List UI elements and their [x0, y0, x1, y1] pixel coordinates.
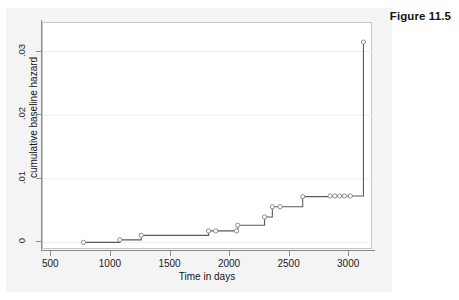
data-point-marker [262, 215, 266, 219]
data-point-marker [361, 40, 365, 44]
data-point-marker [328, 194, 332, 198]
x-tick-mark [289, 251, 290, 256]
y-tick-mark [36, 114, 41, 115]
y-tick-label: .01 [16, 166, 27, 188]
x-tick-mark [229, 251, 230, 256]
x-tick-label: 1500 [150, 258, 190, 269]
x-tick-label: 2000 [209, 258, 249, 269]
x-tick-mark [170, 251, 171, 256]
data-point-marker [214, 229, 218, 233]
x-tick-label: 500 [30, 258, 70, 269]
y-tick-mark [36, 178, 41, 179]
x-tick-label: 3000 [328, 258, 368, 269]
x-tick-mark [50, 251, 51, 256]
plot-area [42, 22, 372, 249]
data-point-marker [139, 233, 143, 237]
step-line [84, 42, 364, 242]
data-point-marker [81, 240, 85, 244]
data-point-marker [207, 229, 211, 233]
x-tick-mark [110, 251, 111, 256]
data-point-marker [234, 229, 238, 233]
figure-container: Figure 11.5 cumulative baseline hazard 0… [0, 0, 459, 300]
x-axis-title: Time in days [42, 271, 372, 282]
gridlines [43, 52, 373, 243]
y-tick-label: 0 [16, 230, 27, 252]
data-point-marker [342, 194, 346, 198]
y-tick-mark [36, 51, 41, 52]
data-point-marker [278, 205, 282, 209]
x-axis-line [41, 250, 375, 251]
data-point-marker [270, 205, 274, 209]
x-tick-mark [348, 251, 349, 256]
step-function-plot [43, 23, 373, 250]
y-tick-mark [36, 241, 41, 242]
data-point-marker [333, 194, 337, 198]
data-point-markers [81, 40, 365, 244]
data-point-marker [301, 194, 305, 198]
data-point-marker [236, 223, 240, 227]
data-point-marker [348, 194, 352, 198]
data-point-marker [338, 194, 342, 198]
x-tick-label: 1000 [90, 258, 130, 269]
y-tick-label: .03 [16, 39, 27, 61]
y-axis-title: cumulative baseline hazard [28, 38, 39, 198]
x-tick-label: 2500 [269, 258, 309, 269]
y-tick-label: .02 [16, 103, 27, 125]
figure-caption: Figure 11.5 [390, 10, 451, 22]
data-point-marker [118, 238, 122, 242]
